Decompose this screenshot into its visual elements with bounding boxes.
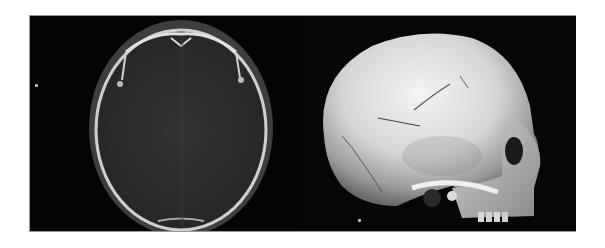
- axial-ct-image: [30, 16, 302, 231]
- marker-dot: [358, 219, 361, 222]
- figure: [29, 15, 576, 232]
- skull-3d-rendering: [302, 16, 576, 231]
- marker-dot: [35, 84, 38, 87]
- skull-3d-panel: [302, 16, 576, 231]
- axial-ct-panel: [30, 16, 302, 231]
